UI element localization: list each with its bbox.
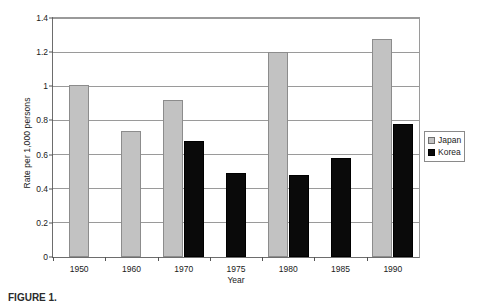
x-tick-mark: [210, 257, 211, 261]
y-gridline: [53, 52, 419, 53]
y-tick-label: 1: [43, 81, 48, 91]
bar-japan-1980: [268, 52, 288, 257]
y-gridline: [53, 18, 419, 19]
legend-swatch-korea-icon: [428, 149, 435, 156]
legend-label: Korea: [438, 146, 461, 158]
bar-korea-1990: [393, 124, 413, 257]
y-tick-mark: [49, 120, 53, 121]
y-axis-title: Rate per 1,000 persons: [22, 63, 32, 223]
x-tick-label: 1950: [70, 264, 89, 274]
chart-legend: JapanKorea: [424, 131, 465, 162]
y-gridline: [53, 120, 419, 121]
x-tick-mark: [262, 257, 263, 261]
legend-swatch-japan-icon: [428, 137, 435, 144]
x-axis-title: Year: [52, 275, 420, 285]
y-tick-mark: [49, 52, 53, 53]
x-tick-mark: [158, 257, 159, 261]
x-tick-label: 1975: [227, 264, 246, 274]
y-tick-label: 0: [43, 252, 48, 262]
legend-item-japan: Japan: [428, 134, 461, 146]
y-tick-mark: [49, 154, 53, 155]
y-tick-label: 0.6: [36, 150, 48, 160]
legend-label: Japan: [438, 134, 461, 146]
x-tick-mark: [314, 257, 315, 261]
x-tick-label: 1980: [279, 264, 298, 274]
bar-korea-1975: [226, 173, 246, 257]
y-tick-label: 0.8: [36, 115, 48, 125]
x-tick-mark: [367, 257, 368, 261]
y-gridline: [53, 154, 419, 155]
y-tick-label: 0.2: [36, 218, 48, 228]
y-gridline: [53, 86, 419, 87]
y-tick-mark: [49, 86, 53, 87]
x-tick-label: 1970: [174, 264, 193, 274]
y-tick-mark: [49, 18, 53, 19]
bar-japan-1950: [69, 85, 89, 257]
bar-korea-1985: [331, 158, 351, 257]
plot-area: 00.20.40.60.811.21.419501960197019751980…: [52, 17, 420, 258]
y-tick-label: 0.4: [36, 184, 48, 194]
y-tick-label: 1.4: [36, 13, 48, 23]
bar-japan-1970: [163, 100, 183, 257]
x-tick-label: 1960: [122, 264, 141, 274]
bar-japan-1990: [372, 39, 392, 258]
x-tick-label: 1985: [331, 264, 350, 274]
legend-item-korea: Korea: [428, 146, 461, 158]
y-tick-mark: [49, 222, 53, 223]
x-tick-label: 1990: [383, 264, 402, 274]
y-tick-label: 1.2: [36, 47, 48, 57]
figure-caption: FIGURE 1.: [8, 292, 57, 301]
x-tick-mark: [53, 257, 54, 261]
bar-japan-1960: [121, 131, 141, 257]
bar-korea-1970: [184, 141, 204, 257]
bar-chart-figure: Rate per 1,000 persons 00.20.40.60.811.2…: [0, 0, 481, 301]
y-tick-mark: [49, 188, 53, 189]
bar-korea-1980: [289, 175, 309, 257]
x-tick-mark: [105, 257, 106, 261]
